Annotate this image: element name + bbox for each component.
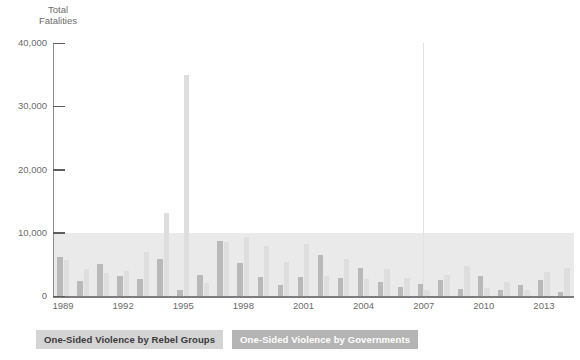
x-tick-label-1995: 1995 [173, 300, 194, 311]
bar-rebel-2013[interactable] [538, 280, 543, 296]
bar-rebel-2008[interactable] [438, 280, 443, 296]
y-tick-label-40000: 40,000 [0, 37, 47, 48]
bar-gov-2004[interactable] [364, 279, 369, 296]
bar-rebel-1990[interactable] [77, 281, 82, 296]
bar-rebel-1999[interactable] [258, 277, 263, 296]
bar-gov-2008[interactable] [444, 275, 449, 296]
bar-rebel-1992[interactable] [117, 276, 122, 296]
bar-gov-2001[interactable] [304, 244, 309, 296]
bar-rebel-2001[interactable] [298, 277, 303, 296]
x-tick-label-2001: 2001 [293, 300, 314, 311]
bar-rebel-2000[interactable] [278, 285, 283, 296]
bar-gov-2014[interactable] [564, 268, 569, 296]
bar-rebel-2010[interactable] [478, 276, 483, 296]
x-tick-label-2004: 2004 [353, 300, 374, 311]
bar-gov-2000[interactable] [284, 262, 289, 296]
bar-gov-2003[interactable] [344, 259, 349, 296]
bar-gov-2002[interactable] [324, 276, 329, 296]
bar-gov-1989[interactable] [64, 260, 69, 296]
bar-rebel-1994[interactable] [157, 259, 162, 296]
vertical-gridline-2007 [423, 43, 424, 296]
y-tick-0 [53, 296, 65, 298]
bar-rebel-1998[interactable] [237, 263, 242, 296]
y-tick-label-0: 0 [0, 290, 47, 301]
bar-gov-1999[interactable] [264, 246, 269, 296]
x-tick-label-2013: 2013 [533, 300, 554, 311]
bar-gov-2006[interactable] [404, 278, 409, 296]
y-tick-label-10000: 10,000 [0, 227, 47, 238]
chart-container: Total Fatalities 010,00020,00030,00040,0… [0, 0, 580, 360]
y-tick-label-30000: 30,000 [0, 100, 47, 111]
bar-gov-1998[interactable] [244, 237, 249, 296]
x-tick-label-1989: 1989 [52, 300, 73, 311]
bar-rebel-2006[interactable] [398, 287, 403, 296]
bar-gov-2011[interactable] [504, 282, 509, 296]
bar-gov-1992[interactable] [124, 271, 129, 296]
bar-gov-2005[interactable] [384, 269, 389, 296]
bar-rebel-1989[interactable] [57, 257, 62, 296]
y-tick-label-20000: 20,000 [0, 164, 47, 175]
bar-gov-1995[interactable] [184, 75, 189, 296]
bar-gov-1994[interactable] [164, 213, 169, 296]
bar-rebel-1996[interactable] [197, 275, 202, 297]
bar-gov-2013[interactable] [544, 272, 549, 296]
legend-item-governments[interactable]: One-Sided Violence by Governments [232, 330, 418, 349]
bar-rebel-2005[interactable] [378, 282, 383, 296]
bar-gov-1996[interactable] [204, 283, 209, 296]
bar-rebel-2002[interactable] [318, 255, 323, 296]
bar-rebel-1991[interactable] [97, 264, 102, 296]
y-axis-title: Total Fatalities [26, 4, 90, 26]
x-axis-line [53, 296, 574, 298]
x-tick-label-2007: 2007 [413, 300, 434, 311]
plot-area [53, 43, 574, 296]
x-tick-label-1998: 1998 [233, 300, 254, 311]
chart-legend: One-Sided Violence by Rebel Groups One-S… [36, 330, 418, 349]
bar-rebel-1993[interactable] [137, 279, 142, 296]
legend-item-rebel-groups[interactable]: One-Sided Violence by Rebel Groups [36, 330, 223, 349]
bar-gov-2009[interactable] [464, 266, 469, 296]
y-tick-10000 [53, 232, 65, 234]
bar-rebel-2003[interactable] [338, 278, 343, 296]
bar-gov-1997[interactable] [224, 242, 229, 296]
bar-rebel-2009[interactable] [458, 289, 463, 296]
y-tick-20000 [53, 169, 65, 171]
y-tick-40000 [53, 43, 65, 45]
y-tick-30000 [53, 106, 65, 108]
bar-rebel-2012[interactable] [518, 285, 523, 296]
bar-gov-1990[interactable] [84, 269, 89, 296]
bar-rebel-2004[interactable] [358, 268, 363, 296]
x-tick-label-1992: 1992 [113, 300, 134, 311]
bar-gov-2010[interactable] [484, 288, 489, 296]
bar-gov-1991[interactable] [104, 273, 109, 296]
x-tick-label-2010: 2010 [473, 300, 494, 311]
bar-gov-1993[interactable] [144, 252, 149, 296]
bar-rebel-1997[interactable] [217, 241, 222, 296]
shaded-band-0-10000 [53, 233, 574, 296]
